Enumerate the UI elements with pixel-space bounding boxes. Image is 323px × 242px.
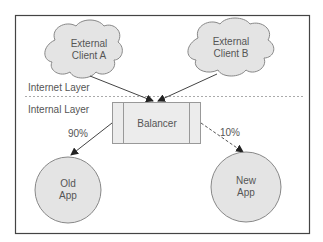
edge-label-10: 10% [220, 127, 240, 139]
old-app-line2: App [48, 190, 88, 202]
client-a-line2: Client A [62, 50, 116, 62]
old-app-line1: Old [48, 178, 88, 190]
new-app-line2: App [226, 187, 266, 199]
old-app-label: Old App [48, 178, 88, 202]
client-a-line1: External [62, 38, 116, 50]
client-b-label: External Client B [204, 36, 258, 60]
internal-layer-label: Internal Layer [28, 104, 89, 116]
edge-label-90: 90% [68, 128, 88, 140]
internet-layer-label: Internet Layer [28, 82, 90, 94]
client-b-line1: External [204, 36, 258, 48]
client-a-label: External Client A [62, 38, 116, 62]
client-b-line2: Client B [204, 48, 258, 60]
new-app-label: New App [226, 175, 266, 199]
new-app-line1: New [226, 175, 266, 187]
balancer-label: Balancer [124, 118, 190, 130]
